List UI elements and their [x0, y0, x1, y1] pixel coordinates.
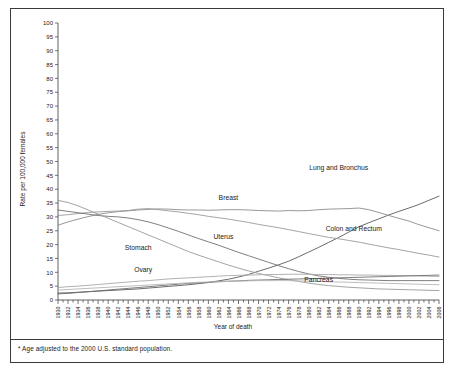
- x-tick-label: 1970: [256, 307, 262, 319]
- series-label-lung-and-bronchus: Lung and Bronchus: [309, 164, 369, 172]
- x-tick-label: 1976: [286, 307, 292, 319]
- y-tick-label: 95: [46, 34, 53, 40]
- x-axis: 1930193219341936193819401942194419461948…: [55, 300, 442, 319]
- chart-figure: 0510152025303540455055606570758085909510…: [10, 8, 444, 363]
- series-lines: [58, 196, 439, 294]
- y-tick-label: 0: [50, 297, 54, 303]
- x-tick-label: 1992: [366, 307, 372, 319]
- x-tick-label: 1930: [55, 307, 61, 319]
- x-tick-label: 1984: [326, 307, 332, 319]
- y-tick-label: 70: [46, 103, 53, 109]
- x-tick-label: 1936: [85, 307, 91, 319]
- y-tick-label: 15: [46, 256, 53, 262]
- y-tick-label: 65: [46, 117, 53, 123]
- x-tick-label: 1998: [396, 307, 402, 319]
- x-tick-label: 2000: [406, 307, 412, 319]
- series-label-ovary: Ovary: [134, 266, 153, 274]
- y-tick-label: 85: [46, 62, 53, 68]
- x-tick-label: 1968: [246, 307, 252, 319]
- x-tick-label: 1988: [346, 307, 352, 319]
- x-tick-label: 1956: [186, 307, 192, 319]
- x-tick-label: 2004: [426, 307, 432, 319]
- series-line-pancreas: [58, 275, 439, 294]
- y-tick-label: 30: [46, 214, 53, 220]
- x-tick-label: 1996: [386, 307, 392, 319]
- x-tick-label: 1986: [336, 307, 342, 319]
- series-label-stomach: Stomach: [125, 244, 152, 251]
- x-axis-title: Year of death: [214, 323, 253, 330]
- y-tick-label: 50: [46, 159, 53, 165]
- x-tick-label: 1942: [115, 307, 121, 319]
- series-label-colon-and-rectum: Colon and Rectum: [326, 225, 383, 232]
- y-tick-label: 40: [46, 186, 53, 192]
- x-tick-label: 1960: [206, 307, 212, 319]
- series-label-uterus: Uterus: [213, 233, 234, 240]
- y-tick-label: 75: [46, 89, 53, 95]
- y-tick-label: 80: [46, 76, 53, 82]
- series-line-colon-and-rectum: [58, 209, 439, 257]
- y-tick-label: 100: [43, 20, 54, 26]
- x-tick-label: 1966: [236, 307, 242, 319]
- x-tick-label: 1974: [276, 307, 282, 319]
- x-tick-label: 1954: [176, 307, 182, 319]
- x-tick-label: 1948: [145, 307, 151, 319]
- x-tick-label: 1982: [316, 307, 322, 319]
- y-tick-label: 20: [46, 242, 53, 248]
- x-tick-label: 1932: [65, 307, 71, 319]
- y-tick-label: 90: [46, 48, 53, 54]
- x-tick-label: 1972: [266, 307, 272, 319]
- y-tick-label: 55: [46, 145, 53, 151]
- y-tick-label: 45: [46, 173, 53, 179]
- y-axis: 0510152025303540455055606570758085909510…: [43, 20, 58, 303]
- series-line-uterus: [58, 210, 439, 281]
- x-tick-label: 1994: [376, 307, 382, 319]
- x-tick-label: 1978: [296, 307, 302, 319]
- x-tick-label: 1958: [196, 307, 202, 319]
- x-tick-label: 1944: [125, 307, 131, 319]
- y-tick-label: 25: [46, 228, 53, 234]
- series-label-pancreas: Pancreas: [304, 276, 333, 283]
- x-tick-label: 1990: [356, 307, 362, 319]
- x-tick-label: 1964: [226, 307, 232, 319]
- y-tick-label: 60: [46, 131, 53, 137]
- x-tick-label: 1938: [95, 307, 101, 319]
- y-tick-label: 35: [46, 200, 53, 206]
- footnote-text: * Age adjusted to the 2000 U.S. standard…: [18, 345, 172, 352]
- x-tick-label: 1980: [306, 307, 312, 319]
- x-tick-label: 1962: [216, 307, 222, 319]
- x-tick-label: 1946: [135, 307, 141, 319]
- x-tick-label: 2002: [416, 307, 422, 319]
- footnote-divider: [11, 339, 443, 340]
- series-label-breast: Breast: [219, 194, 239, 201]
- x-tick-label: 1940: [105, 307, 111, 319]
- mortality-rate-line-chart: 0510152025303540455055606570758085909510…: [11, 9, 445, 339]
- x-tick-label: 2006: [436, 307, 442, 319]
- series-line-lung-and-bronchus: [58, 196, 439, 293]
- y-axis-title: Rate per 100,000 females: [19, 131, 27, 207]
- plot-area: 0510152025303540455055606570758085909510…: [11, 9, 445, 339]
- y-tick-label: 10: [46, 270, 53, 276]
- y-tick-label: 5: [50, 283, 54, 289]
- x-tick-label: 1934: [75, 307, 81, 319]
- x-tick-label: 1950: [155, 307, 161, 319]
- x-tick-label: 1952: [165, 307, 171, 319]
